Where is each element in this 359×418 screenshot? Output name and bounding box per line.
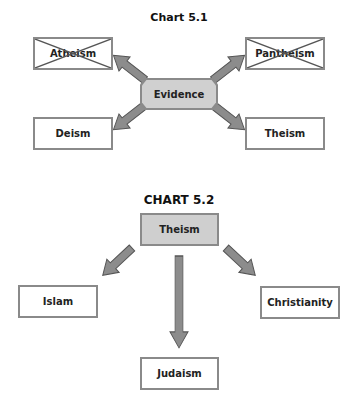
evidence-label: Evidence [154, 89, 205, 100]
arrow-to-judaism-icon [170, 256, 188, 348]
cross-out-icon [247, 39, 323, 68]
chart-5-1-title: Chart 5.1 [119, 11, 239, 24]
cross-out-icon [35, 39, 111, 68]
christianity-box: Christianity [260, 286, 340, 319]
theism-label: Theism [265, 128, 306, 139]
christianity-label: Christianity [267, 297, 333, 308]
judaism-label: Judaism [157, 368, 202, 379]
evidence-box: Evidence [140, 78, 218, 110]
deism-label: Deism [56, 128, 91, 139]
atheism-box: Atheism [33, 37, 113, 70]
deism-box: Deism [33, 117, 113, 150]
theism-box: Theism [245, 117, 325, 150]
chart-5-2-title: CHART 5.2 [119, 193, 239, 207]
pantheism-box: Pantheism [245, 37, 325, 70]
judaism-box: Judaism [140, 357, 219, 390]
islam-label: Islam [43, 296, 73, 307]
arrow-to-christianity-icon [220, 241, 262, 281]
theism-root-box: Theism [140, 213, 219, 246]
islam-box: Islam [18, 285, 98, 318]
theism-root-label: Theism [159, 224, 200, 235]
arrow-to-islam-icon [97, 241, 139, 281]
